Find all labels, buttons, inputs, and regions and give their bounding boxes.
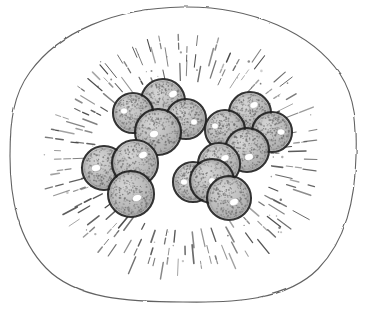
stipple-dot (223, 149, 225, 151)
stipple-dot (203, 189, 204, 190)
stipple-dot (243, 114, 244, 115)
stipple-dot (228, 182, 230, 184)
stipple-dot (127, 150, 129, 152)
stipple-dot (172, 131, 174, 133)
stipple-dot (152, 91, 153, 92)
stipple-dot (243, 142, 244, 143)
stipple-dot (219, 123, 221, 125)
stipple-dot (138, 162, 139, 163)
stipple-dot (230, 205, 232, 207)
stipple-dot (191, 131, 193, 133)
stipple-dot (160, 149, 161, 150)
stipple-dot (144, 127, 146, 129)
stipple-dot (148, 129, 150, 131)
stipple-dot (215, 165, 216, 166)
stipple-dot (243, 100, 245, 102)
stipple-dot (132, 162, 134, 164)
stipple-dot (128, 193, 129, 194)
stipple-dot (228, 184, 229, 185)
stipple-dot (131, 119, 132, 120)
stipple-dot (149, 193, 150, 194)
stipple-dot (149, 153, 151, 155)
stipple-dot (170, 141, 172, 143)
hatch-dash (215, 256, 216, 259)
stipple-dot (246, 132, 248, 134)
stipple-dot (229, 192, 231, 194)
stipple-dot (88, 175, 90, 177)
stipple-dot (160, 120, 161, 121)
stipple-dot (242, 107, 244, 109)
stipple-dot (129, 157, 131, 159)
stipple-dot (132, 182, 133, 183)
stipple-dot (255, 149, 256, 150)
stipple-dot (178, 94, 179, 95)
stipple-dot (151, 165, 153, 167)
stipple-dot (256, 155, 257, 156)
stipple-dot (132, 105, 133, 106)
stipple-dot (129, 189, 131, 191)
stipple-dot (158, 122, 160, 124)
stipple-dot (146, 128, 147, 129)
hatch-speck (227, 235, 229, 237)
stipple-dot (184, 191, 185, 192)
stipple-dot (148, 151, 149, 152)
stipple-dot (182, 124, 184, 126)
stipple-dot (239, 212, 240, 213)
stipple-dot (215, 163, 216, 164)
stipple-dot (221, 128, 222, 129)
stipple-dot (136, 100, 137, 101)
stipple-dot (130, 108, 132, 110)
stipple-dot (115, 194, 117, 196)
stipple-dot (270, 124, 272, 126)
stipple-dot (113, 189, 115, 191)
stipple-dot (212, 137, 213, 138)
stipple-dot (228, 123, 230, 125)
stipple-dot (254, 164, 255, 165)
stipple-dot (126, 165, 127, 166)
stipple-dot (135, 178, 136, 179)
stipple-dot (142, 191, 143, 192)
hatch-speck (280, 231, 282, 233)
stipple-dot (135, 169, 137, 171)
stipple-dot (204, 196, 205, 197)
stipple-dot (216, 147, 217, 148)
stipple-dot (149, 168, 150, 169)
stipple-dot (214, 136, 216, 138)
stipple-dot (265, 117, 267, 119)
stipple-dot (126, 183, 127, 184)
stipple-dot (133, 109, 134, 110)
stipple-dot (197, 118, 199, 120)
stipple-dot (218, 138, 220, 140)
stipple-dot (269, 131, 271, 133)
stipple-dot (136, 104, 138, 106)
stipple-dot (171, 139, 172, 140)
stipple-dot (178, 96, 179, 97)
stipple-dot (242, 116, 243, 117)
stipple-dot (262, 158, 264, 160)
stipple-dot (147, 202, 148, 203)
stipple-dot (107, 151, 108, 152)
stipple-dot (187, 106, 188, 107)
stipple-dot (145, 139, 146, 140)
stipple-dot (260, 124, 262, 126)
stipple-dot (220, 131, 221, 132)
stipple-dot (142, 106, 143, 107)
stipple-dot (124, 208, 125, 209)
stipple-dot (206, 154, 207, 155)
stipple-dot (191, 111, 192, 112)
stipple-dot (155, 100, 156, 101)
stipple-dot (242, 160, 244, 162)
stipple-dot (115, 184, 116, 185)
stipple-dot (225, 137, 227, 139)
stipple-dot (216, 133, 218, 135)
stipple-dot (201, 186, 202, 187)
hatch-speck (110, 79, 112, 81)
stipple-dot (249, 124, 250, 125)
stipple-dot (157, 94, 158, 95)
stipple-dot (135, 102, 137, 104)
stipple-dot (140, 113, 142, 115)
stipple-dot (156, 100, 157, 101)
stipple-dot (236, 209, 237, 210)
stipple-dot (157, 122, 158, 123)
stipple-dot (169, 142, 170, 143)
